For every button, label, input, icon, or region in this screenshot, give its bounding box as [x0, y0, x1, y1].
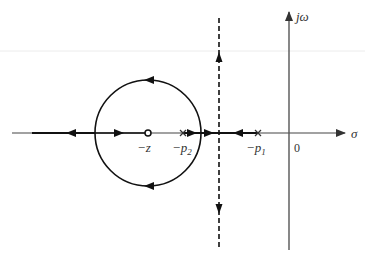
- arrow-left-icon: [66, 129, 76, 137]
- arrow-right-icon: [114, 129, 124, 137]
- zero-label: −z: [137, 140, 151, 155]
- pole-p1-label: −p1: [246, 140, 266, 157]
- origin-label: 0: [294, 141, 300, 155]
- asymptote-line: [216, 18, 223, 250]
- arrow-left-icon: [144, 76, 154, 84]
- arrow-right-icon: [204, 129, 214, 137]
- arrow-left-icon: [144, 182, 154, 190]
- arrow-up-icon: [216, 52, 223, 62]
- arrow-left-icon: [233, 129, 243, 137]
- arrow-right-icon: [187, 129, 197, 137]
- arrow-down-icon: [216, 204, 223, 214]
- imag-axis-label: jω: [294, 9, 309, 24]
- real-axis-label: σ: [351, 126, 358, 141]
- pole-p2-label: −p2: [172, 140, 192, 157]
- zero-marker: [145, 130, 151, 136]
- root-locus-diagram: jω σ 0 −z −p2 −p1: [0, 0, 365, 259]
